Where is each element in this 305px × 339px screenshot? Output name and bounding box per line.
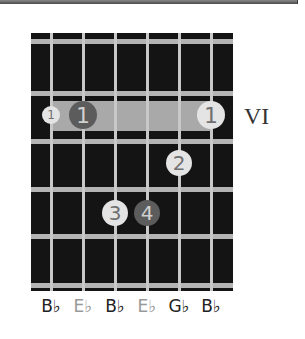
fret-position-label: VI — [244, 103, 269, 130]
finger-dot: 3 — [102, 200, 128, 226]
fret-line-4 — [31, 234, 233, 239]
finger-dot: 1 — [69, 101, 97, 129]
top-border — [0, 0, 298, 4]
string-note: G♭ — [163, 296, 195, 316]
finger-dot: 1 — [42, 106, 60, 124]
string-1 — [210, 33, 213, 291]
fret-line-1 — [31, 91, 233, 96]
finger-dot: 4 — [134, 200, 160, 226]
string-note: B♭ — [99, 296, 131, 316]
string-note: E♭ — [131, 296, 163, 316]
string-5 — [82, 33, 85, 291]
fretboard — [31, 33, 233, 291]
string-3 — [146, 33, 149, 291]
fret-line-2 — [31, 139, 233, 144]
string-note: B♭ — [195, 296, 227, 316]
fret-line-3 — [31, 187, 233, 192]
string-note: B♭ — [35, 296, 67, 316]
fret-line-nut — [31, 39, 233, 44]
string-6 — [50, 33, 53, 291]
finger-dot: 2 — [166, 150, 192, 176]
finger-dot: 1 — [197, 101, 225, 129]
string-4 — [114, 33, 117, 291]
fret-line-5 — [31, 283, 233, 288]
string-note: E♭ — [67, 296, 99, 316]
